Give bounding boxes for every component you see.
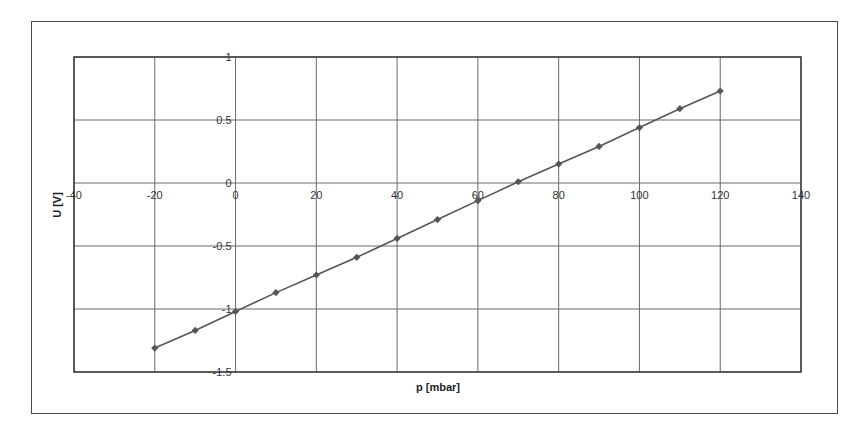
x-tick-label: 0: [232, 189, 238, 201]
x-tick-label: 100: [630, 189, 648, 201]
x-tick-label: -20: [147, 189, 163, 201]
plot-area: [74, 57, 801, 372]
x-tick-label: 120: [711, 189, 729, 201]
y-tick-label: -1.5: [213, 366, 232, 378]
diamond-marker-icon: [192, 327, 199, 334]
x-axis-title: p [mbar]: [416, 381, 460, 393]
y-tick-label: 0: [225, 177, 231, 189]
gridlines: [74, 57, 801, 372]
y-tick-label: -0.5: [213, 240, 232, 252]
y-axis-ticks: 10.50-0.5-1-1.5: [213, 51, 232, 378]
x-tick-label: 40: [391, 189, 403, 201]
diamond-marker-icon: [434, 216, 441, 223]
diamond-marker-icon: [717, 87, 724, 94]
diamond-marker-icon: [676, 105, 683, 112]
diamond-marker-icon: [313, 271, 320, 278]
line-chart: -40-20020406080100120140 10.50-0.5-1-1.5…: [0, 0, 862, 432]
y-axis-title: U [V]: [51, 192, 63, 218]
diamond-marker-icon: [151, 344, 158, 351]
diamond-marker-icon: [394, 235, 401, 242]
diamond-marker-icon: [353, 254, 360, 261]
x-tick-label: 80: [553, 189, 565, 201]
x-tick-label: -40: [66, 189, 82, 201]
x-axis-ticks: -40-20020406080100120140: [66, 189, 810, 201]
x-tick-label: 20: [310, 189, 322, 201]
x-tick-label: 140: [792, 189, 810, 201]
y-tick-label: 1: [225, 51, 231, 63]
y-tick-label: 0.5: [216, 114, 231, 126]
diamond-marker-icon: [636, 124, 643, 131]
data-series: [151, 87, 724, 351]
diamond-marker-icon: [555, 161, 562, 168]
diamond-marker-icon: [515, 178, 522, 185]
diamond-marker-icon: [272, 289, 279, 296]
diamond-marker-icon: [595, 143, 602, 150]
